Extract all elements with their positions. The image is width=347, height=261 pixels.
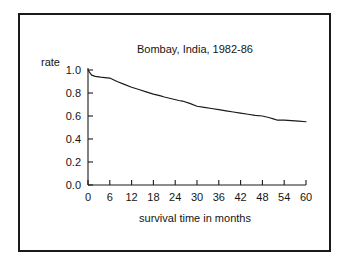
y-tick-label: 0.8 [66, 87, 81, 99]
y-tick-label: 0.0 [66, 179, 81, 191]
x-tick-marks [88, 180, 306, 185]
y-tick-label: 0.6 [66, 110, 81, 122]
survival-rate-line [88, 70, 306, 122]
figure-root: Bombay, India, 1982-86 rate survival tim… [0, 0, 347, 261]
x-tick-labels: 06121824303642485460 [85, 191, 312, 203]
x-tick-label: 54 [278, 191, 290, 203]
x-tick-label: 30 [191, 191, 203, 203]
x-tick-label: 0 [85, 191, 91, 203]
x-tick-label: 42 [234, 191, 246, 203]
chart-title: Bombay, India, 1982-86 [137, 43, 253, 55]
y-tick-label: 0.2 [66, 156, 81, 168]
y-axis-title: rate [41, 56, 60, 68]
y-tick-label: 1.0 [66, 64, 81, 76]
y-tick-label: 0.4 [66, 133, 81, 145]
x-tick-label: 6 [107, 191, 113, 203]
x-tick-label: 48 [256, 191, 268, 203]
x-tick-label: 12 [125, 191, 137, 203]
x-tick-label: 36 [213, 191, 225, 203]
x-tick-label: 60 [300, 191, 312, 203]
survival-curve-chart: Bombay, India, 1982-86 rate survival tim… [0, 0, 347, 261]
y-tick-marks [88, 70, 93, 185]
x-axis-title: survival time in months [139, 212, 251, 224]
x-tick-label: 24 [169, 191, 181, 203]
x-tick-label: 18 [147, 191, 159, 203]
y-tick-labels: 0.00.20.40.60.81.0 [66, 64, 81, 191]
